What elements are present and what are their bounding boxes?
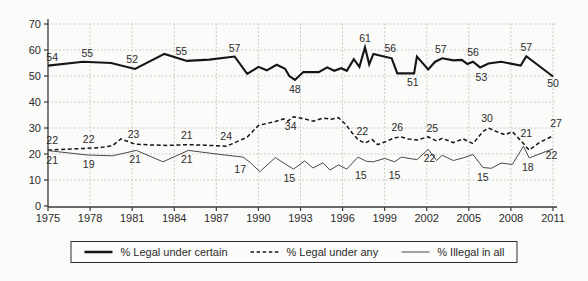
data-label: 26 xyxy=(391,121,403,133)
x-tick-label: 1978 xyxy=(78,212,102,224)
data-label: 21 xyxy=(129,153,141,165)
data-label: 50 xyxy=(547,77,559,89)
data-label: 55 xyxy=(81,47,93,59)
data-label: 17 xyxy=(234,163,246,175)
x-tick-label: 1999 xyxy=(372,212,396,224)
data-label: 21 xyxy=(521,127,533,139)
legend-item-legal-under-certain: % Legal under certain xyxy=(83,246,227,258)
x-tick-label: 1987 xyxy=(204,212,228,224)
y-tick-label: 60 xyxy=(29,44,41,56)
y-tick-label: 30 xyxy=(29,122,41,134)
x-tick-label: 1975 xyxy=(36,212,60,224)
data-label: 53 xyxy=(476,71,488,83)
legend-label-legal-under-certain: % Legal under certain xyxy=(120,246,227,258)
data-label: 22 xyxy=(83,133,95,145)
dashed-line-swatch-icon xyxy=(250,247,280,257)
solid-thin-line-swatch-icon xyxy=(400,247,430,257)
data-label: 19 xyxy=(83,158,95,170)
data-label: 54 xyxy=(46,51,58,63)
x-tick-label: 2002 xyxy=(415,212,439,224)
data-label: 23 xyxy=(128,128,140,140)
data-label: 57 xyxy=(229,42,241,54)
x-tick-label: 2008 xyxy=(499,212,523,224)
solid-thick-line-swatch-icon xyxy=(83,247,113,257)
y-tick-label: 40 xyxy=(29,96,41,108)
data-label: 48 xyxy=(289,83,301,95)
data-label: 25 xyxy=(427,122,439,134)
y-tick-label: 70 xyxy=(29,18,41,30)
chart-legend: % Legal under certain % Legal under any … xyxy=(70,241,517,263)
data-label: 56 xyxy=(467,46,479,58)
data-label: 52 xyxy=(126,53,138,65)
data-label: 30 xyxy=(481,112,493,124)
y-tick-label: 50 xyxy=(29,70,41,82)
data-label: 15 xyxy=(477,171,489,183)
data-label: 15 xyxy=(283,172,295,184)
data-label: 57 xyxy=(521,41,533,53)
data-label: 15 xyxy=(389,169,401,181)
x-tick-label: 1990 xyxy=(246,212,270,224)
data-label: 22 xyxy=(546,149,558,161)
data-label: 56 xyxy=(384,42,396,54)
data-label: 22 xyxy=(356,125,368,137)
data-label: 55 xyxy=(175,45,187,57)
x-tick-label: 1984 xyxy=(162,212,186,224)
legend-label-illegal-in-all: % Illegal in all xyxy=(437,246,504,258)
data-label: 27 xyxy=(550,117,562,129)
x-tick-label: 2011 xyxy=(541,212,565,224)
x-tick-label: 1996 xyxy=(330,212,354,224)
legend-item-illegal-in-all: % Illegal in all xyxy=(400,246,504,258)
y-tick-label: 10 xyxy=(29,174,41,186)
x-tick-label: 2005 xyxy=(457,212,481,224)
chart-page: 0102030405060701975197819811984198719901… xyxy=(0,0,588,281)
data-label: 22 xyxy=(46,134,58,146)
data-label: 61 xyxy=(359,32,371,44)
data-label: 57 xyxy=(435,43,447,55)
data-label: 21 xyxy=(181,153,193,165)
y-tick-label: 0 xyxy=(35,200,41,212)
data-label: 24 xyxy=(220,130,232,142)
data-label: 21 xyxy=(181,129,193,141)
data-label: 15 xyxy=(355,169,367,181)
data-label: 18 xyxy=(522,161,534,173)
data-label: 51 xyxy=(407,76,419,88)
y-tick-label: 20 xyxy=(29,148,41,160)
legend-label-legal-under-any: % Legal under any xyxy=(287,246,379,258)
legend-item-legal-under-any: % Legal under any xyxy=(250,246,379,258)
line-chart: 0102030405060701975197819811984198719901… xyxy=(0,0,588,236)
data-label: 21 xyxy=(46,154,58,166)
x-tick-label: 1993 xyxy=(288,212,312,224)
data-label: 22 xyxy=(424,152,436,164)
data-label: 34 xyxy=(285,120,297,132)
x-tick-label: 1981 xyxy=(120,212,144,224)
